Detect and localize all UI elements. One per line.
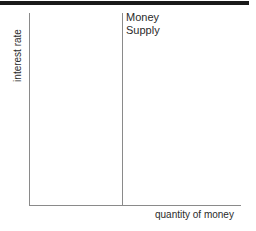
money-supply-label-line-1: Money: [126, 11, 159, 23]
money-supply-curve-label: MoneySupply: [126, 11, 160, 36]
y-axis-label: interest rate: [12, 16, 23, 96]
money-supply-label-line-2: Supply: [126, 24, 160, 36]
money-supply-curve: [122, 13, 123, 206]
x-axis-line: [29, 205, 241, 206]
money-supply-chart: MoneySupply interest rate quantity of mo…: [0, 0, 256, 231]
y-axis-line: [29, 13, 30, 206]
x-axis-label: quantity of money: [155, 209, 234, 220]
top-divider-rule: [0, 1, 249, 5]
